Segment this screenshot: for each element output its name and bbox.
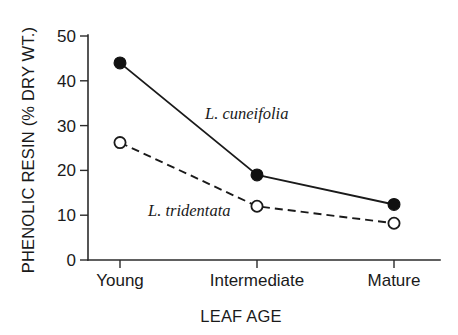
y-tick-label-20: 20 — [57, 161, 76, 180]
series-label-l-cuneifolia: L. cuneifolia — [204, 104, 288, 123]
y-tick-label-50: 50 — [57, 27, 76, 46]
x-tick-label-intermediate: Intermediate — [210, 271, 305, 290]
data-point-l-cuneifolia-intermediate — [251, 169, 263, 181]
data-point-l-cuneifolia-mature — [388, 199, 400, 211]
phenolic-resin-line-chart: 50 40 30 20 10 0 Young Intermediate Matu… — [0, 0, 458, 335]
y-tick-label-10: 10 — [57, 206, 76, 225]
chart-canvas: 50 40 30 20 10 0 Young Intermediate Matu… — [0, 0, 458, 335]
y-axis-tick-labels: 50 40 30 20 10 0 — [57, 27, 76, 270]
y-axis-ticks — [80, 36, 88, 260]
x-axis-tick-labels: Young Intermediate Mature — [96, 271, 420, 290]
x-axis-ticks — [120, 260, 394, 268]
data-point-l-tridentata-mature — [388, 218, 399, 229]
data-point-l-cuneifolia-young — [114, 57, 126, 69]
y-tick-label-30: 30 — [57, 117, 76, 136]
y-tick-label-40: 40 — [57, 72, 76, 91]
series-label-l-tridentata: L. tridentata — [147, 201, 231, 220]
y-tick-label-0: 0 — [67, 251, 76, 270]
x-tick-label-mature: Mature — [368, 271, 421, 290]
y-axis-title: PHENOLIC RESIN (% DRY WT.) — [19, 27, 37, 274]
series-l-cuneifolia — [114, 57, 400, 210]
series-line-l-cuneifolia — [120, 63, 394, 205]
data-point-l-tridentata-young — [114, 137, 125, 148]
x-tick-label-young: Young — [96, 271, 144, 290]
data-point-l-tridentata-intermediate — [251, 201, 262, 212]
x-axis-title: LEAF AGE — [200, 307, 281, 325]
